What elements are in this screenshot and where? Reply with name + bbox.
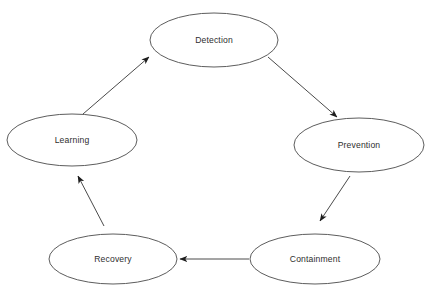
node-recovery[interactable]: Recovery <box>49 234 177 284</box>
edge-recovery-to-learning <box>78 176 104 226</box>
edge-learning-to-detection <box>83 57 149 114</box>
node-recovery-label: Recovery <box>94 254 132 264</box>
node-detection-label: Detection <box>195 35 233 45</box>
node-prevention[interactable]: Prevention <box>294 118 424 172</box>
node-learning-label: Learning <box>55 135 90 145</box>
node-containment-label: Containment <box>290 254 341 264</box>
diagram-canvas: Detection Prevention Containment Recover… <box>0 0 427 288</box>
node-learning[interactable]: Learning <box>7 114 137 166</box>
node-detection[interactable]: Detection <box>150 13 278 67</box>
node-containment[interactable]: Containment <box>250 234 380 284</box>
node-prevention-label: Prevention <box>338 140 381 150</box>
cycle-diagram: Detection Prevention Containment Recover… <box>0 0 427 288</box>
edge-prevention-to-containment <box>320 176 350 221</box>
edge-detection-to-prevention <box>268 57 337 117</box>
